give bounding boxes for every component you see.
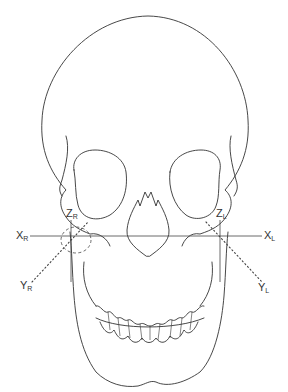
right-ramus <box>70 232 228 386</box>
skull-diagram <box>0 0 288 392</box>
right-zygomatic-arch <box>66 217 110 246</box>
cranium-outline <box>42 16 249 217</box>
right-condyle-circle <box>61 227 91 253</box>
nasal-cavity <box>127 192 169 256</box>
left-zygomatic-arch <box>182 217 226 246</box>
right-orbit <box>74 150 127 219</box>
label-x-left: XL <box>264 230 275 242</box>
lower-teeth <box>100 322 198 343</box>
left-temporal-line <box>230 136 237 196</box>
right-coronoid <box>84 262 97 306</box>
label-y-right: YR <box>20 280 32 292</box>
y-axis-right <box>32 222 88 282</box>
y-axis-left <box>206 222 262 282</box>
label-z-right: ZR <box>66 208 78 220</box>
left-coronoid <box>200 262 213 306</box>
label-z-left: ZL <box>216 208 227 220</box>
label-y-left: YL <box>258 282 269 294</box>
left-orbit <box>170 150 221 218</box>
teeth <box>96 306 204 343</box>
label-x-right: XR <box>16 230 28 242</box>
